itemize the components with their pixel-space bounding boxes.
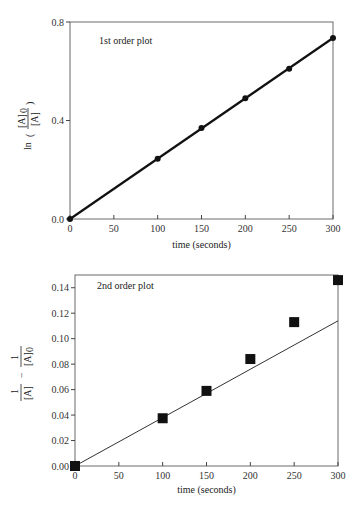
x-axis-ticks: 050100150200250300 [73, 462, 346, 481]
data-point [67, 216, 73, 222]
data-points [70, 275, 343, 471]
second-order-plot: 050100150200250300 0.000.020.040.060.080… [9, 275, 346, 496]
y-tick-label: 0.06 [52, 384, 70, 395]
ylabel-numerator: [A] [16, 114, 27, 128]
data-point [199, 125, 205, 131]
x-tick-label: 250 [287, 470, 302, 481]
ylabel-a-numerator: 1 [9, 389, 20, 394]
y-tick-label: 0.08 [52, 359, 70, 370]
x-axis-label: time (seconds) [172, 239, 231, 251]
plot-frame [75, 275, 338, 466]
y-tick-label: 0.02 [52, 435, 70, 446]
x-tick-label: 200 [243, 470, 258, 481]
ylabel-b-numerator: 1 [9, 355, 20, 360]
y-axis-ticks: 0.000.020.040.060.080.100.120.14 [52, 282, 76, 471]
ylabel-a-denominator: [A] [22, 386, 33, 400]
data-point [155, 156, 161, 162]
ylabel-b-sub: 0 [24, 347, 35, 352]
x-tick-label: 0 [68, 223, 73, 234]
x-tick-label: 0 [73, 470, 78, 481]
y-axis-label: 1 [A] − 1 [A] 0 [9, 346, 35, 401]
data-point [242, 95, 248, 101]
x-tick-label: 100 [155, 470, 170, 481]
x-tick-label: 50 [109, 223, 119, 234]
x-tick-label: 50 [114, 470, 124, 481]
x-tick-label: 200 [238, 223, 253, 234]
plot-annotation: 2nd order plot [97, 280, 154, 291]
data-point [286, 66, 292, 72]
y-tick-label: 0.0 [52, 214, 65, 225]
x-axis-label: time (seconds) [177, 484, 236, 496]
y-tick-label: 0.00 [52, 461, 70, 472]
x-tick-label: 150 [194, 223, 209, 234]
x-tick-label: 150 [199, 470, 214, 481]
x-tick-label: 300 [326, 223, 341, 234]
ylabel-numerator-sub: 0 [18, 108, 29, 113]
ylabel-ln: ln [22, 142, 33, 150]
y-tick-label: 0.10 [52, 333, 70, 344]
data-point [289, 317, 299, 327]
y-tick-label: 0.12 [52, 308, 70, 319]
data-point [245, 354, 255, 364]
data-point [330, 35, 336, 41]
y-axis-label: ln ( [A] 0 [A] ) [16, 102, 40, 150]
plot-frame [70, 22, 333, 219]
x-axis-ticks: 050100150200250300 [68, 215, 341, 234]
first-order-plot: 050100150200250300 0.00.40.8 1st order p… [16, 17, 341, 252]
plot-annotation: 1st order plot [99, 35, 153, 46]
y-tick-label: 0.14 [52, 282, 70, 293]
x-tick-label: 300 [331, 470, 346, 481]
ylabel-operator: − [16, 372, 27, 378]
data-point [70, 461, 80, 471]
ylabel-b-denominator: [A] [22, 352, 33, 366]
y-tick-label: 0.8 [52, 17, 65, 28]
ylabel-denominator: [A] [29, 112, 40, 126]
x-tick-label: 100 [150, 223, 165, 234]
y-axis-ticks: 0.00.40.8 [52, 17, 71, 225]
y-tick-label: 0.04 [52, 410, 70, 421]
data-point [158, 413, 168, 423]
y-tick-label: 0.4 [52, 115, 65, 126]
data-point [202, 386, 212, 396]
x-tick-label: 250 [282, 223, 297, 234]
ylabel-lparen: ( [24, 133, 36, 137]
data-point [333, 275, 343, 285]
kinetics-figure: 050100150200250300 0.00.40.8 1st order p… [0, 0, 355, 510]
ylabel-rparen: ) [24, 102, 36, 105]
